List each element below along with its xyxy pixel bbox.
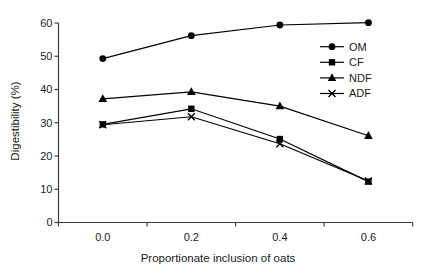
marker-ndf-0.2 xyxy=(187,87,196,95)
marker-cf-0.0 xyxy=(100,121,106,127)
x-axis-title: Proportionate inclusion of oats xyxy=(141,252,296,264)
marker-om-0.6 xyxy=(365,19,372,26)
x-tick-label: 0.6 xyxy=(361,231,376,243)
digestibility-line-chart-figure: 01020304050600.00.20.40.6Proportionate i… xyxy=(0,0,436,280)
y-tick-label: 30 xyxy=(40,117,52,129)
y-tick-label: 20 xyxy=(40,150,52,162)
marker-om-0.0 xyxy=(99,55,106,62)
series-line-adf xyxy=(103,117,369,181)
legend-label-om: OM xyxy=(349,41,367,53)
marker-cf-0.6 xyxy=(365,178,371,184)
series-line-cf xyxy=(103,109,369,182)
y-tick-label: 60 xyxy=(40,17,52,29)
x-tick-label: 0.4 xyxy=(272,231,287,243)
y-tick-label: 50 xyxy=(40,50,52,62)
legend-marker-ndf xyxy=(328,73,337,81)
marker-om-0.4 xyxy=(276,22,283,29)
y-tick-label: 40 xyxy=(40,83,52,95)
legend-marker-cf xyxy=(329,59,335,65)
legend-marker-om xyxy=(329,43,336,50)
marker-cf-0.2 xyxy=(188,106,194,112)
y-tick-label: 10 xyxy=(40,183,52,195)
chart-canvas: 01020304050600.00.20.40.6Proportionate i… xyxy=(0,0,436,280)
x-tick-label: 0.2 xyxy=(184,231,199,243)
legend-label-cf: CF xyxy=(349,56,364,68)
legend-label-ndf: NDF xyxy=(349,72,372,84)
y-tick-label: 0 xyxy=(46,216,52,228)
series-line-om xyxy=(103,23,369,59)
y-axis-title: Digestibility (%) xyxy=(9,81,21,160)
series-line-ndf xyxy=(103,92,369,136)
marker-om-0.2 xyxy=(188,32,195,39)
x-tick-label: 0.0 xyxy=(95,231,110,243)
marker-cf-0.4 xyxy=(277,136,283,142)
legend-label-adf: ADF xyxy=(349,87,371,99)
